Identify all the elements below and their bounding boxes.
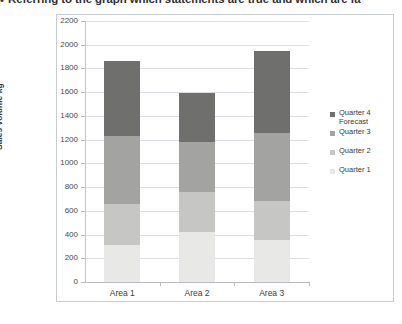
y-tick-mark	[81, 211, 85, 212]
y-tick-mark	[81, 282, 85, 283]
y-tick-mark	[81, 21, 85, 22]
bar-area-1[interactable]	[104, 21, 140, 282]
y-tick-label: 1600	[44, 88, 78, 96]
bar-segment[interactable]	[254, 240, 290, 282]
y-axis-title: Sales volume kg	[0, 83, 4, 150]
y-tick-mark	[81, 68, 85, 69]
x-axis-line	[85, 282, 309, 283]
y-axis-labels: 0200400600800100012001400160018002000220…	[40, 0, 78, 324]
legend-label: Quarter 4Forecast	[339, 108, 371, 126]
y-tick-mark	[81, 140, 85, 141]
legend-label: Quarter 2	[339, 146, 371, 155]
y-tick-mark	[81, 116, 85, 117]
bar-segment[interactable]	[104, 136, 140, 204]
legend-label: Quarter 1	[339, 165, 371, 174]
y-tick-mark	[81, 258, 85, 259]
y-tick-label: 800	[44, 183, 78, 191]
bar-segment[interactable]	[179, 232, 215, 282]
bar-segment[interactable]	[104, 204, 140, 246]
y-tick-label: 1400	[44, 112, 78, 120]
bar-segment[interactable]	[104, 245, 140, 282]
bar-segment[interactable]	[254, 201, 290, 240]
x-axis-label: Area 1	[82, 288, 162, 298]
y-tick-mark	[81, 45, 85, 46]
y-tick-label: 1800	[44, 64, 78, 72]
y-tick-mark	[81, 187, 85, 188]
chart-legend: Quarter 4ForecastQuarter 3Quarter 2Quart…	[330, 110, 394, 186]
y-tick-label: 1200	[44, 136, 78, 144]
bar-segment[interactable]	[179, 93, 215, 142]
y-tick-label: 2200	[44, 17, 78, 25]
y-axis-line	[85, 21, 86, 283]
x-tick-mark	[309, 282, 310, 286]
legend-swatch	[330, 131, 335, 136]
bar-segment[interactable]	[179, 192, 215, 232]
x-axis-label: Area 3	[232, 288, 312, 298]
x-tick-mark	[234, 282, 235, 286]
y-tick-mark	[81, 92, 85, 93]
x-axis-label: Area 2	[157, 288, 237, 298]
y-tick-label: 0	[44, 278, 78, 286]
y-tick-mark	[81, 163, 85, 164]
y-tick-label: 2000	[44, 41, 78, 49]
legend-swatch	[330, 150, 335, 155]
y-tick-label: 600	[44, 207, 78, 215]
y-tick-label: 200	[44, 254, 78, 262]
bullet-icon: •	[0, 0, 4, 6]
bar-segment[interactable]	[104, 61, 140, 136]
legend-swatch	[330, 169, 335, 174]
bar-area-3[interactable]	[254, 21, 290, 282]
legend-item[interactable]: Quarter 1	[330, 167, 394, 186]
legend-label: Quarter 3	[339, 127, 371, 136]
y-tick-label: 400	[44, 231, 78, 239]
y-tick-label: 1000	[44, 159, 78, 167]
bar-segment[interactable]	[254, 133, 290, 201]
legend-swatch	[330, 112, 335, 117]
bar-segment[interactable]	[254, 51, 290, 133]
bar-segment[interactable]	[179, 142, 215, 192]
y-tick-mark	[81, 235, 85, 236]
x-tick-mark	[160, 282, 161, 286]
bar-area-2[interactable]	[179, 21, 215, 282]
